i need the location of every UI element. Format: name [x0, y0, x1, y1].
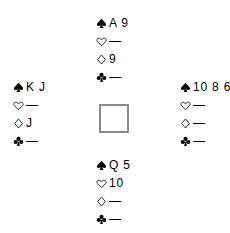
- spade-icon: [180, 82, 193, 93]
- spade-icon: [13, 82, 26, 93]
- diamond-icon: [96, 54, 109, 65]
- west-hearts-row: —: [13, 96, 46, 114]
- west-spades-row: K J: [13, 78, 46, 96]
- west-diamonds-row: J: [13, 114, 46, 132]
- east-clubs-holding: —: [193, 132, 205, 150]
- north-hearts-holding: —: [109, 32, 121, 50]
- west-hearts-holding: —: [26, 96, 38, 114]
- south-clubs-row: —: [96, 210, 131, 228]
- north-spades-holding: A 9: [109, 14, 129, 32]
- south-clubs-holding: —: [109, 210, 121, 228]
- hand-west: K J — J: [13, 78, 46, 150]
- club-icon: [96, 72, 109, 83]
- south-hearts-holding: 10: [109, 174, 124, 192]
- diamond-icon: [13, 118, 26, 129]
- south-diamonds-holding: —: [109, 192, 121, 210]
- club-icon: [96, 214, 109, 225]
- heart-icon: [96, 36, 109, 47]
- center-square: [99, 104, 129, 133]
- diamond-icon: [180, 118, 193, 129]
- north-clubs-row: —: [96, 68, 129, 86]
- west-spades-holding: K J: [26, 78, 46, 96]
- heart-icon: [180, 100, 193, 111]
- north-spades-row: A 9: [96, 14, 129, 32]
- west-clubs-holding: —: [26, 132, 38, 150]
- east-diamonds-holding: —: [193, 114, 205, 132]
- east-diamonds-row: —: [180, 114, 230, 132]
- north-diamonds-holding: 9: [109, 50, 116, 68]
- bridge-deal-diagram: A 9 — 9: [0, 0, 230, 233]
- north-hearts-row: —: [96, 32, 129, 50]
- east-hearts-holding: —: [193, 96, 205, 114]
- club-icon: [13, 136, 26, 147]
- south-diamonds-row: —: [96, 192, 131, 210]
- west-diamonds-holding: J: [26, 114, 33, 132]
- diamond-icon: [96, 196, 109, 207]
- south-hearts-row: 10: [96, 174, 131, 192]
- hand-north: A 9 — 9: [96, 14, 129, 86]
- east-spades-row: 10 8 6: [180, 78, 230, 96]
- west-clubs-row: —: [13, 132, 46, 150]
- south-spades-row: Q 5: [96, 156, 131, 174]
- heart-icon: [13, 100, 26, 111]
- north-clubs-holding: —: [109, 68, 121, 86]
- club-icon: [180, 136, 193, 147]
- east-hearts-row: —: [180, 96, 230, 114]
- east-clubs-row: —: [180, 132, 230, 150]
- south-spades-holding: Q 5: [109, 156, 131, 174]
- hand-south: Q 5 10 —: [96, 156, 131, 228]
- north-diamonds-row: 9: [96, 50, 129, 68]
- east-spades-holding: 10 8 6: [193, 78, 230, 96]
- hand-east: 10 8 6 — —: [180, 78, 230, 150]
- heart-icon: [96, 178, 109, 189]
- spade-icon: [96, 18, 109, 29]
- spade-icon: [96, 160, 109, 171]
